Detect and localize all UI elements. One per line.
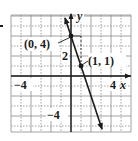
- axes: [11, 13, 131, 132]
- margin-mark: [0, 25, 3, 27]
- point-label-0-4: (0, 4): [24, 37, 50, 51]
- leader-line-0-4: [58, 37, 71, 43]
- x-tick-label-4: 4: [110, 78, 116, 92]
- coordinate-plane: (0, 4) (1, 1) 2 −4 −4 4 x y: [0, 0, 138, 141]
- line-arrow-up-icon: [64, 17, 69, 25]
- y-tick-label-2: 2: [62, 49, 68, 63]
- y-axis-label: y: [75, 9, 83, 23]
- x-axis-label: x: [119, 78, 126, 92]
- x-tick-label-neg4: −4: [14, 78, 27, 92]
- point-label-1-1: (1, 1): [88, 54, 114, 68]
- y-tick-label-neg4: −4: [47, 108, 60, 122]
